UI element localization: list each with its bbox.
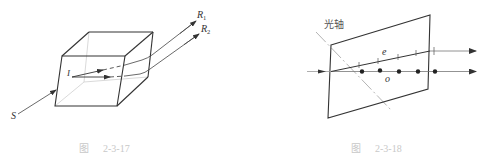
figure-birefringent-crystal: S I R1 R2 图 2-3-17 (11, 9, 210, 154)
caption-prefix-left: 图 (79, 143, 89, 154)
diagram-canvas: S I R1 R2 图 2-3-17 (0, 0, 483, 159)
label-ray-r2: R2 (200, 23, 210, 35)
label-source-s: S (11, 110, 16, 121)
crystal-plate (328, 15, 430, 118)
ray-r2 (125, 34, 199, 76)
label-ray-r1: R1 (196, 9, 206, 21)
o-ray-dots (360, 68, 437, 73)
caption-number-right: 2-3-18 (375, 143, 402, 154)
label-o-ray: o (385, 73, 390, 84)
internal-ray-1 (72, 70, 103, 77)
caption-prefix-right: 图 (351, 143, 361, 154)
ray-r1 (125, 21, 196, 65)
label-e-ray: e (382, 46, 387, 57)
caption-number-left: 2-3-17 (103, 143, 130, 154)
label-optic-axis: 光轴 (324, 18, 344, 30)
label-incident-i: I (66, 68, 71, 78)
figure-optic-axis-plate: 光轴 e o 图 2-3-18 (307, 15, 476, 154)
